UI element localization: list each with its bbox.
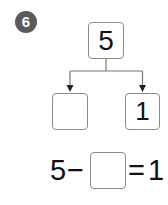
equation-minus-sign: − (67, 152, 84, 189)
equation-minuend: 5 (50, 152, 66, 189)
whole-number-box: 5 (88, 22, 124, 59)
arrow-down-icon (139, 85, 146, 92)
missing-part-box[interactable] (52, 93, 88, 130)
known-part-box: 1 (125, 93, 160, 130)
equation-result: 1 (148, 152, 164, 189)
equation-equals-sign: = (128, 152, 145, 189)
arrow-down-icon (67, 85, 74, 92)
equation-answer-box[interactable] (90, 152, 126, 189)
